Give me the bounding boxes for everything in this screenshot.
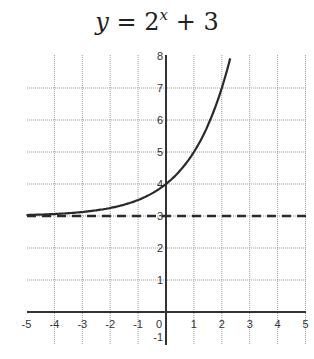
x-tick-label: 0 [156,318,162,330]
x-tick-label: -3 [77,318,87,330]
x-tick-label: 5 [302,318,308,330]
y-tick-label: 2 [157,242,163,254]
y-tick-label: 5 [157,146,163,158]
x-tick-label: -4 [50,318,60,330]
x-tick-label: -1 [133,318,143,330]
y-tick-label: -1 [153,331,163,343]
exponential-curve [27,58,231,215]
plot-area: -5-4-3-2-1012345-112345678 [0,0,314,359]
x-tick-label: 4 [275,318,281,330]
y-tick-label: 7 [157,82,163,94]
x-tick-label: 3 [247,318,253,330]
x-tick-label: -2 [105,318,115,330]
x-tick-label: 2 [219,318,225,330]
axes [27,55,306,345]
x-tick-label: -5 [22,318,32,330]
y-tick-label: 1 [157,274,163,286]
y-tick-label: 6 [157,114,163,126]
x-tick-label: 1 [191,318,197,330]
y-tick-label: 8 [157,50,163,62]
